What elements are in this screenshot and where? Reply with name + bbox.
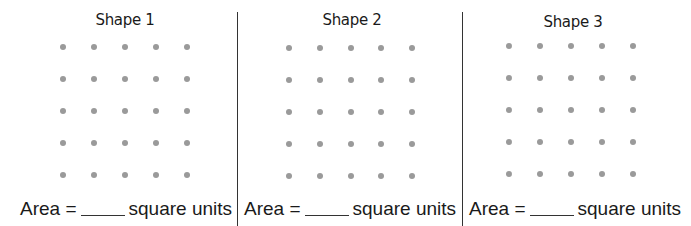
- grid-dot[interactable]: [153, 172, 159, 178]
- area-label: Area =: [469, 198, 526, 219]
- grid-dot[interactable]: [122, 76, 128, 82]
- grid-dot[interactable]: [348, 109, 354, 115]
- grid-dot[interactable]: [599, 75, 605, 81]
- area-units-label: square units: [129, 198, 233, 219]
- grid-dot[interactable]: [568, 43, 574, 49]
- grid-dot[interactable]: [60, 44, 66, 50]
- grid-dot[interactable]: [599, 139, 605, 145]
- grid-dot[interactable]: [317, 173, 323, 179]
- grid-dot[interactable]: [91, 108, 97, 114]
- grid-dot[interactable]: [599, 43, 605, 49]
- grid-dot[interactable]: [537, 171, 543, 177]
- grid-dot[interactable]: [286, 141, 292, 147]
- grid-dot[interactable]: [184, 172, 190, 178]
- grid-dot[interactable]: [317, 141, 323, 147]
- grid-dot[interactable]: [409, 109, 415, 115]
- grid-dot[interactable]: [409, 173, 415, 179]
- grid-dot[interactable]: [286, 109, 292, 115]
- shape-1-area-line: Area =square units: [20, 198, 232, 220]
- grid-dot[interactable]: [599, 171, 605, 177]
- shape-3-title: Shape 3: [543, 13, 602, 31]
- grid-dot[interactable]: [286, 173, 292, 179]
- grid-dot[interactable]: [630, 75, 636, 81]
- grid-dot[interactable]: [153, 140, 159, 146]
- shape-2-title: Shape 2: [322, 11, 381, 29]
- area-units-label: square units: [578, 198, 682, 219]
- grid-dot[interactable]: [91, 76, 97, 82]
- grid-dot[interactable]: [630, 139, 636, 145]
- grid-dot[interactable]: [122, 44, 128, 50]
- grid-dot[interactable]: [378, 77, 384, 83]
- grid-dot[interactable]: [378, 141, 384, 147]
- grid-dot[interactable]: [348, 45, 354, 51]
- grid-dot[interactable]: [568, 171, 574, 177]
- grid-dot[interactable]: [537, 139, 543, 145]
- grid-dot[interactable]: [378, 109, 384, 115]
- area-units-label: square units: [353, 198, 457, 219]
- grid-dot[interactable]: [568, 139, 574, 145]
- grid-dot[interactable]: [537, 43, 543, 49]
- grid-dot[interactable]: [317, 77, 323, 83]
- grid-dot[interactable]: [409, 45, 415, 51]
- grid-dot[interactable]: [60, 140, 66, 146]
- grid-dot[interactable]: [378, 173, 384, 179]
- grid-dot[interactable]: [506, 171, 512, 177]
- grid-dot[interactable]: [348, 77, 354, 83]
- grid-dot[interactable]: [153, 76, 159, 82]
- grid-dot[interactable]: [506, 107, 512, 113]
- grid-dot[interactable]: [60, 76, 66, 82]
- grid-dot[interactable]: [184, 76, 190, 82]
- grid-dot[interactable]: [378, 45, 384, 51]
- grid-dot[interactable]: [91, 44, 97, 50]
- shape-3-area-line: Area =square units: [469, 198, 681, 220]
- grid-dot[interactable]: [630, 171, 636, 177]
- grid-dot[interactable]: [122, 172, 128, 178]
- grid-dot[interactable]: [537, 75, 543, 81]
- grid-dot[interactable]: [506, 43, 512, 49]
- grid-dot[interactable]: [60, 108, 66, 114]
- grid-dot[interactable]: [409, 141, 415, 147]
- area-label: Area =: [244, 198, 301, 219]
- panel-divider: [237, 12, 238, 226]
- grid-dot[interactable]: [153, 44, 159, 50]
- grid-dot[interactable]: [286, 77, 292, 83]
- panel-divider: [462, 12, 463, 226]
- grid-dot[interactable]: [122, 108, 128, 114]
- grid-dot[interactable]: [348, 141, 354, 147]
- grid-dot[interactable]: [537, 107, 543, 113]
- grid-dot[interactable]: [317, 109, 323, 115]
- grid-dot[interactable]: [630, 107, 636, 113]
- area-label: Area =: [20, 198, 77, 219]
- grid-dot[interactable]: [286, 45, 292, 51]
- grid-dot[interactable]: [506, 139, 512, 145]
- grid-dot[interactable]: [184, 108, 190, 114]
- area-answer-blank[interactable]: [81, 201, 125, 216]
- grid-dot[interactable]: [317, 45, 323, 51]
- shape-1-title: Shape 1: [95, 11, 154, 29]
- grid-dot[interactable]: [91, 140, 97, 146]
- grid-dot[interactable]: [348, 173, 354, 179]
- grid-dot[interactable]: [568, 75, 574, 81]
- grid-dot[interactable]: [568, 107, 574, 113]
- shape-2-area-line: Area =square units: [244, 198, 456, 220]
- grid-dot[interactable]: [184, 140, 190, 146]
- grid-dot[interactable]: [91, 172, 97, 178]
- area-answer-blank[interactable]: [530, 201, 574, 216]
- grid-dot[interactable]: [60, 172, 66, 178]
- grid-dot[interactable]: [599, 107, 605, 113]
- grid-dot[interactable]: [184, 44, 190, 50]
- grid-dot[interactable]: [409, 77, 415, 83]
- area-answer-blank[interactable]: [305, 201, 349, 216]
- grid-dot[interactable]: [506, 75, 512, 81]
- grid-dot[interactable]: [630, 43, 636, 49]
- grid-dot[interactable]: [153, 108, 159, 114]
- grid-dot[interactable]: [122, 140, 128, 146]
